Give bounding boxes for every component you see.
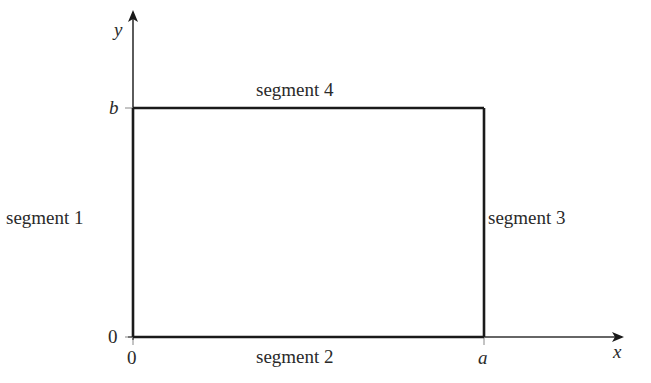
tick-label-b: b: [109, 97, 119, 118]
diagram-canvas: y x b 0 0 a segment 1 segment 2 segment …: [0, 0, 651, 383]
segment-1-label: segment 1: [6, 207, 84, 228]
tick-label-a: a: [478, 347, 488, 368]
segment-2-label: segment 2: [256, 346, 334, 367]
y-axis-label: y: [112, 19, 123, 40]
x-axis-label: x: [612, 341, 622, 362]
segment-4-label: segment 4: [256, 79, 334, 100]
segment-3-label: segment 3: [488, 207, 566, 228]
tick-label-y-0: 0: [108, 326, 118, 347]
tick-label-x-0: 0: [127, 347, 137, 368]
